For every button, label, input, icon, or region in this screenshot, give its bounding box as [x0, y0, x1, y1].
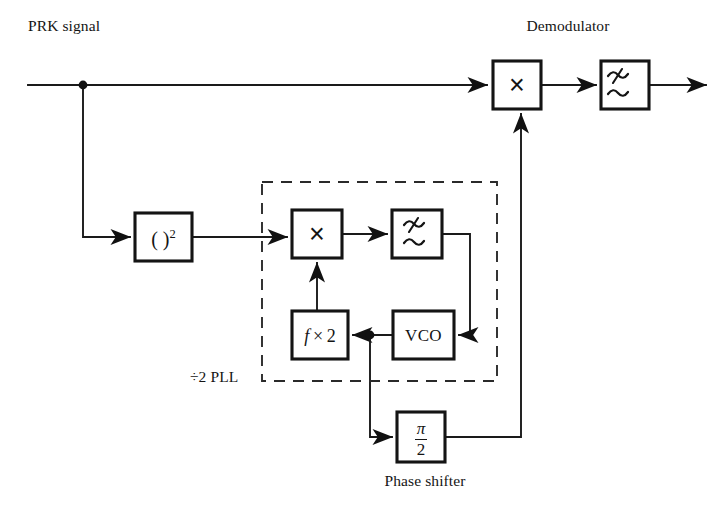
vco-output-junction-dot [366, 331, 375, 340]
wire-vco-junction-to-phaseshifter [370, 335, 392, 437]
prk-signal-label: PRK signal [28, 18, 168, 34]
pll-multiplier-symbol: × [292, 221, 342, 248]
wire-phaseshifter-to-demodmult [445, 114, 521, 437]
fraction-numerator: π [414, 420, 429, 439]
demodulator-lowpass-filter-block-rect[interactable] [601, 61, 649, 109]
block-diagram-canvas: PRK signal Demodulator ÷2 PLL Phase shif… [0, 0, 723, 515]
wire-input-branch-to-squarer [83, 85, 130, 237]
fraction-denominator: 2 [414, 440, 429, 459]
demodulator-multiplier-symbol: × [493, 72, 541, 99]
squaring-block-text: ( )2 [135, 228, 192, 249]
diagram-vector-layer [0, 0, 723, 515]
phase-shifter-fraction: π 2 [397, 420, 445, 459]
times-two-text: × 2 [309, 326, 335, 346]
squaring-block-exponent: 2 [170, 227, 176, 241]
phase-shifter-label: Phase shifter [350, 473, 500, 489]
demodulator-label: Demodulator [478, 18, 658, 34]
pi-over-two-fraction: π 2 [414, 420, 429, 459]
pll-loop-filter-block-rect[interactable] [392, 210, 442, 258]
squaring-block-base: ( ) [151, 228, 169, 250]
pll-label: ÷2 PLL [190, 369, 270, 385]
input-split-junction-dot [79, 81, 88, 90]
vco-block-text: VCO [393, 327, 454, 344]
frequency-multiplier-text: f × 2 [292, 327, 348, 345]
